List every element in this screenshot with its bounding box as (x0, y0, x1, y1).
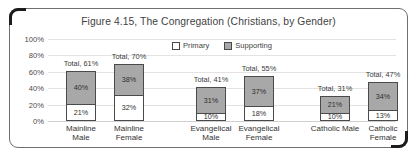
legend-label-supporting: Supporting (235, 41, 272, 50)
axis-baseline (48, 121, 396, 122)
bar-total-label: Total, 61% (64, 59, 99, 68)
chart-legend: Primary Supporting (48, 41, 396, 50)
bar-2: Total, 70%38%32%MainlineFemale (114, 64, 144, 121)
legend-swatch-supporting-icon (224, 42, 232, 50)
bar-total-label: Total, 47% (366, 70, 401, 79)
chart-title: Figure 4.15, The Congregation (Christian… (10, 16, 407, 27)
bar-total-label: Total, 31% (318, 84, 353, 93)
bar-segment-primary: 13% (368, 110, 398, 121)
bar-segment-supporting: 34% (368, 82, 398, 110)
bar-1: Total, 61%40%21%MainlineMale (66, 71, 96, 121)
bar-5: Total, 31%21%10%Catholic Male (320, 96, 350, 121)
x-axis-category-label: EvangelicalFemale (231, 125, 287, 143)
bar-total-label: Total, 41% (194, 75, 229, 84)
x-axis-category-label: CatholicFemale (355, 125, 411, 143)
legend-item-primary: Primary (172, 41, 209, 50)
bar-segment-primary: 10% (196, 113, 226, 121)
plot-area: Primary Supporting 0%20%40%60%80%100% To… (48, 39, 396, 121)
bar-6: Total, 47%34%13%CatholicFemale (368, 82, 398, 121)
bar-segment-primary: 18% (244, 106, 274, 121)
gridline (48, 72, 396, 73)
bar-4: Total, 55%37%18%EvangelicalFemale (244, 76, 274, 121)
bar-segment-supporting: 21% (320, 96, 350, 113)
bar-segment-supporting: 40% (66, 71, 96, 104)
gridline (48, 55, 396, 56)
bar-segment-supporting: 37% (244, 76, 274, 106)
bar-segment-primary: 10% (320, 113, 350, 121)
legend-swatch-primary-icon (172, 42, 180, 50)
bar-segment-supporting: 31% (196, 87, 226, 112)
legend-item-supporting: Supporting (224, 41, 272, 50)
bar-3: Total, 41%31%10%EvangelicalMale (196, 87, 226, 121)
bar-total-label: Total, 55% (242, 64, 277, 73)
y-axis-tick-label: 40% (29, 84, 44, 93)
legend-label-primary: Primary (183, 41, 209, 50)
y-axis-tick-label: 20% (29, 100, 44, 109)
y-axis-tick-label: 0% (33, 117, 44, 126)
bar-total-label: Total, 70% (112, 52, 147, 61)
gridline (48, 39, 396, 40)
y-axis-tick-label: 60% (29, 67, 44, 76)
chart-frame: Figure 4.15, The Congregation (Christian… (9, 8, 408, 148)
x-axis-category-label: MainlineFemale (101, 125, 157, 143)
bar-segment-primary: 21% (66, 104, 96, 121)
y-axis-tick-label: 80% (29, 51, 44, 60)
y-axis-tick-label: 100% (25, 35, 44, 44)
bar-segment-supporting: 38% (114, 64, 144, 95)
bar-segment-primary: 32% (114, 95, 144, 121)
